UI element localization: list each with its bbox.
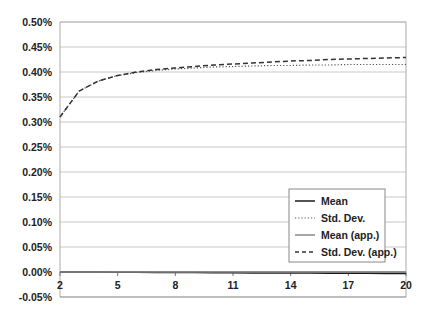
y-axis-ticks: 0.50%0.45%0.40%0.35%0.30%0.25%0.20%0.15%… [19, 16, 53, 303]
y-tick-label: 0.35% [22, 91, 52, 103]
x-tick-label: 2 [57, 279, 63, 291]
x-tick-label: 11 [227, 279, 238, 291]
legend-label: Mean [321, 195, 348, 207]
x-tick-label: 5 [115, 279, 121, 291]
y-tick-label: 0.30% [22, 116, 52, 128]
y-tick-label: 0.50% [22, 16, 52, 28]
legend-label: Std. Dev. [321, 212, 365, 224]
x-tick-label: 8 [172, 279, 178, 291]
y-tick-label: 0.20% [22, 166, 52, 178]
y-tick-label: 0.10% [22, 216, 52, 228]
x-tick-label: 20 [400, 279, 412, 291]
x-tick-label: 17 [342, 279, 354, 291]
legend-label: Std. Dev. (app.) [321, 246, 397, 258]
y-tick-label: 0.40% [22, 66, 52, 78]
y-tick-label: 0.15% [22, 191, 52, 203]
x-axis-ticks: 25811141720 [57, 272, 412, 291]
legend-label: Mean (app.) [321, 229, 379, 241]
y-tick-label: -0.05% [19, 291, 53, 303]
line-chart: 0.50%0.45%0.40%0.35%0.30%0.25%0.20%0.15%… [0, 0, 431, 317]
y-tick-label: 0.00% [22, 266, 52, 278]
y-tick-label: 0.25% [22, 141, 52, 153]
y-tick-label: 0.45% [22, 41, 52, 53]
y-tick-label: 0.05% [22, 241, 52, 253]
legend: MeanStd. Dev.Mean (app.)Std. Dev. (app.) [289, 189, 397, 262]
x-tick-label: 14 [285, 279, 297, 291]
